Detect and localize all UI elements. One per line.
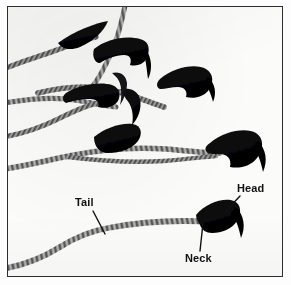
sperm-micrograph: Tail Head Neck xyxy=(8,7,282,276)
label-head: Head xyxy=(237,182,264,194)
figure-root: Tail Head Neck xyxy=(0,0,291,285)
figure-plate-border: Tail Head Neck xyxy=(7,6,283,277)
label-neck: Neck xyxy=(185,252,212,264)
label-tail: Tail xyxy=(75,196,94,208)
